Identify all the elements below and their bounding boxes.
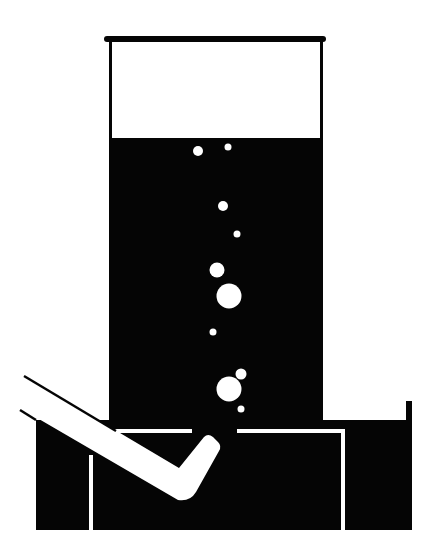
shelf-leg-right	[341, 429, 345, 530]
jar-wall-left	[109, 40, 112, 140]
gas-bubble	[217, 377, 242, 402]
shelf-top-right	[237, 429, 345, 433]
jar-rim	[104, 36, 326, 42]
diagram-canvas	[0, 0, 437, 556]
gas-collection-diagram: Gas collection over water apparatus	[0, 0, 437, 556]
inverted-gas-jar	[104, 36, 326, 430]
gas-bubble	[236, 369, 247, 380]
trough-right-wall	[406, 401, 412, 530]
gas-bubble	[210, 263, 225, 278]
gas-bubble	[218, 201, 228, 211]
gas-bubble	[210, 329, 217, 336]
jar-wall-right	[320, 40, 323, 140]
gas-bubble	[225, 144, 232, 151]
shelf-leg-left	[89, 455, 93, 530]
gas-bubble	[193, 146, 203, 156]
gas-bubble	[217, 284, 242, 309]
gas-bubble	[238, 406, 245, 413]
gas-bubble	[234, 231, 241, 238]
jar-liquid	[109, 138, 323, 430]
